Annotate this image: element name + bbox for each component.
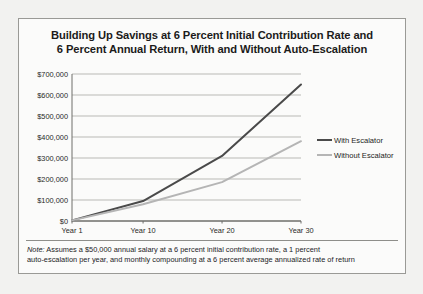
figure-panel: Building Up Savings at 6 Percent Initial… — [18, 18, 406, 274]
line-chart-svg: $0$100,000$200,000$300,000$400,000$500,0… — [19, 67, 405, 242]
x-axis-tick-label: Year 10 — [130, 226, 155, 235]
note-lead-label: Note: — [27, 245, 45, 254]
note-text-1: Assumes a $50,000 annual salary at a 6 p… — [45, 245, 320, 254]
x-axis-tick-label: Year 20 — [209, 226, 234, 235]
y-axis-tick-label: $300,000 — [37, 154, 68, 163]
x-axis-tick-label: Year 30 — [288, 226, 313, 235]
x-axis-tick-label: Year 1 — [61, 226, 82, 235]
y-axis-tick-label: $400,000 — [37, 133, 68, 142]
y-axis-tick-labels: $0$100,000$200,000$300,000$400,000$500,0… — [37, 70, 68, 226]
y-axis-tick-label: $700,000 — [37, 70, 68, 79]
plot-area: $0$100,000$200,000$300,000$400,000$500,0… — [19, 67, 405, 242]
y-axis-tick-label: $600,000 — [37, 91, 68, 100]
note-line-2: auto-escalation per year, and monthly co… — [27, 255, 398, 265]
chart-title: Building Up Savings at 6 Percent Initial… — [19, 19, 405, 56]
chart-title-line-1: Building Up Savings at 6 Percent Initial… — [19, 28, 405, 42]
series-line — [72, 141, 301, 220]
x-axis-tick-labels: Year 1Year 10Year 20Year 30 — [61, 226, 313, 235]
y-axis-tick-label: $200,000 — [37, 175, 68, 184]
gridlines-group — [72, 74, 301, 221]
y-axis-tick-label: $100,000 — [37, 196, 68, 205]
note-divider — [26, 240, 398, 241]
chart-note: Note: Assumes a $50,000 annual salary at… — [27, 245, 398, 264]
note-line-1: Note: Assumes a $50,000 annual salary at… — [27, 245, 398, 255]
chart-legend: With EscalatorWithout Escalator — [317, 136, 394, 160]
legend-label: With Escalator — [334, 136, 383, 145]
legend-label: Without Escalator — [334, 151, 394, 160]
y-axis-tick-label: $0 — [60, 217, 68, 226]
y-axis-tick-label: $500,000 — [37, 112, 68, 121]
chart-title-line-2: 6 Percent Annual Return, With and Withou… — [19, 42, 405, 56]
